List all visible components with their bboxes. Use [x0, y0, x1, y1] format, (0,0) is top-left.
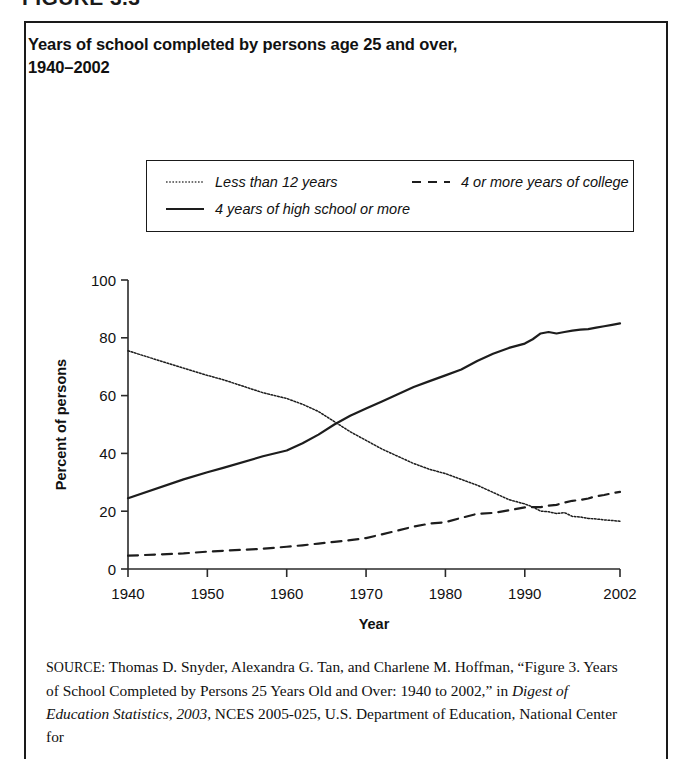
y-tick-label: 0	[108, 561, 116, 578]
chart-axes	[121, 280, 620, 577]
x-tick-label: 1970	[349, 585, 382, 602]
series-line-solid	[128, 323, 620, 498]
series-line-dashed	[128, 492, 620, 556]
y-tick-label: 100	[91, 272, 116, 289]
x-tick-label: 1990	[508, 585, 541, 602]
x-tick-label: 1960	[270, 585, 303, 602]
y-tick-label: 20	[99, 503, 116, 520]
x-tick-label: 1980	[429, 585, 462, 602]
x-tick-label: 1940	[111, 585, 144, 602]
y-tick-label: 40	[99, 445, 116, 462]
chart-series	[128, 323, 620, 555]
source-label: SOURCE:	[46, 660, 105, 675]
x-tick-label: 1950	[191, 585, 224, 602]
series-line-dotted	[128, 351, 620, 522]
y-tick-label: 80	[99, 329, 116, 346]
chart-plot-area: 0204060801001940195019601970198019902002…	[0, 0, 686, 759]
y-tick-label: 60	[99, 387, 116, 404]
x-axis-title: Year	[359, 616, 390, 632]
x-tick-label: 2002	[603, 585, 636, 602]
y-axis-title: Percent of persons	[53, 359, 69, 490]
source-note: SOURCE: Thomas D. Snyder, Alexandra G. T…	[46, 655, 624, 748]
chart-axis-labels: 0204060801001940195019601970198019902002…	[53, 272, 637, 633]
